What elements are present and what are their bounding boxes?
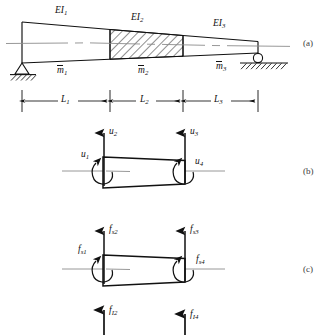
panel-label-b: (b) [303,166,314,176]
label-fs2: fs2 [109,225,118,235]
label-fs1: fs1 [78,245,87,255]
label-u1: u1 [81,150,89,160]
label-fs3: fs3 [190,225,199,235]
diagram-svg [0,0,333,335]
label-fs4: fs4 [196,255,205,265]
label-m1: m1 [57,66,67,76]
pin-support-ground-hatch [11,75,36,81]
label-L1: L1 [61,95,70,105]
panel-label-c: (c) [303,264,313,274]
pin-support-triangle [15,63,29,74]
label-EI2: EI2 [131,13,143,23]
label-u2: u2 [109,127,117,137]
roller-support-ground-hatch [241,63,287,69]
figure-canvas: EI1 EI2 EI3 m1 m2 m3 L1 L2 L3 u2 u3 u1 u… [0,0,333,335]
label-EI1: EI1 [55,6,67,16]
panel-label-a: (a) [303,38,313,48]
label-u4: u4 [195,157,203,167]
beam-axis-seg [227,46,290,47]
label-u3: u3 [190,127,198,137]
beam-axis-seg [6,43,68,44]
label-fI4: fI4 [190,310,198,320]
roller-support-circle [253,53,262,62]
label-fI2: fI2 [109,306,117,316]
element-c-inner-axis [106,269,130,270]
label-L3: L3 [214,95,223,105]
label-EI3: EI3 [213,19,225,29]
label-m3: m3 [216,62,226,72]
element-b-inner-axis [106,171,130,172]
label-m2: m2 [138,66,148,76]
label-L2: L2 [140,95,149,105]
